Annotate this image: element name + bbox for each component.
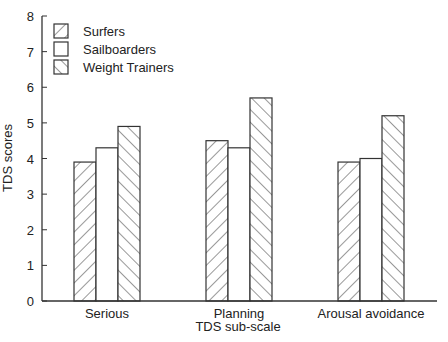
y-axis-title: TDS scores: [0, 124, 15, 192]
bar-chart: 012345678 SeriousPlanningArousal avoidan…: [0, 0, 448, 342]
legend-label: Surfers: [83, 24, 125, 39]
y-tick-label: 6: [27, 80, 34, 95]
y-tick-label: 2: [27, 223, 34, 238]
y-tick-label: 4: [27, 152, 34, 167]
x-tick-label: Serious: [85, 306, 130, 321]
bar-surfers-serious: [74, 162, 96, 301]
bar-sailboarders-planning: [228, 148, 250, 301]
x-axis: SeriousPlanningArousal avoidance: [42, 301, 437, 321]
bars: [74, 98, 404, 301]
legend-swatch-sailboarders: [54, 42, 68, 56]
legend-label: Sailboarders: [83, 42, 156, 57]
y-tick-label: 3: [27, 187, 34, 202]
legend-label: Weight Trainers: [83, 60, 174, 75]
bar-surfers-planning: [206, 141, 228, 301]
y-tick-label: 1: [27, 258, 34, 273]
bar-sailboarders-serious: [96, 148, 118, 301]
legend-swatch-surfers: [54, 24, 68, 38]
y-tick-label: 7: [27, 45, 34, 60]
y-tick-label: 5: [27, 116, 34, 131]
bar-surfers-arousal-avoidance: [338, 162, 360, 301]
bar-weight-trainers-planning: [250, 98, 272, 301]
legend-swatch-weight-trainers: [54, 60, 68, 74]
bar-weight-trainers-arousal-avoidance: [382, 116, 404, 301]
y-tick-label: 8: [27, 9, 34, 24]
x-axis-title: TDS sub-scale: [195, 319, 280, 334]
y-axis: 012345678: [27, 9, 47, 309]
y-tick-label: 0: [27, 294, 34, 309]
x-tick-label: Arousal avoidance: [318, 306, 425, 321]
bar-sailboarders-arousal-avoidance: [360, 159, 382, 302]
legend: SurfersSailboardersWeight Trainers: [54, 24, 174, 75]
bar-weight-trainers-serious: [118, 126, 140, 301]
